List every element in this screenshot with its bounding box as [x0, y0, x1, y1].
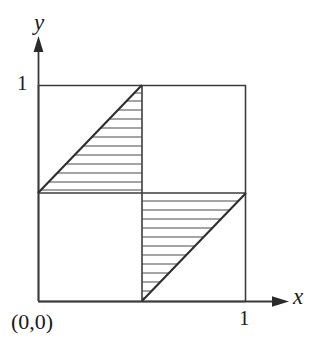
- unit-square-diagram: [0, 0, 327, 348]
- upper-triangle-hypotenuse: [38, 85, 142, 193]
- y-axis-tick-label-1: 1: [17, 73, 28, 94]
- y-axis-label: y: [34, 11, 44, 34]
- x-axis-label: x: [293, 285, 303, 308]
- origin-label: (0,0): [11, 311, 53, 333]
- lower-triangle-hypotenuse: [142, 193, 246, 301]
- axis-arrow-up-icon: [34, 36, 44, 52]
- x-axis-tick-label-1: 1: [239, 308, 250, 329]
- midlines-group: [38, 85, 246, 301]
- axis-arrow-right-icon: [272, 296, 289, 306]
- figure-canvas: y x 1 1 (0,0): [0, 0, 327, 348]
